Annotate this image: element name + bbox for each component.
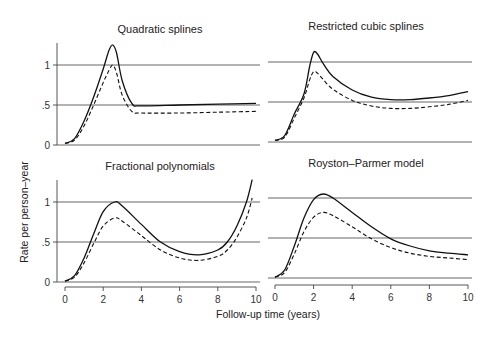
svg-text:0: 0 [272, 292, 278, 303]
curve-1-solid [275, 52, 468, 141]
curve-2-dashed [65, 198, 252, 281]
curve-3-dashed [275, 212, 468, 277]
svg-text:10: 10 [462, 292, 474, 303]
svg-text:10: 10 [250, 294, 262, 305]
chart-figure: Quadratic splines Restricted cubic splin… [0, 0, 493, 339]
y-ticks-bottom: 0 .5 1 [42, 197, 57, 288]
svg-text:4: 4 [139, 294, 145, 305]
curve-3-solid [275, 194, 468, 277]
svg-text:.5: .5 [42, 100, 51, 111]
panel-title-quadratic: Quadratic splines [118, 23, 203, 35]
curve-2-solid [65, 180, 252, 282]
x-axis-right: 0246810 [272, 285, 474, 303]
panel-title-royston: Royston–Parmer model [308, 157, 424, 169]
svg-text:6: 6 [177, 294, 183, 305]
svg-text:6: 6 [388, 292, 394, 303]
x-axis-label: Follow-up time (years) [216, 308, 320, 320]
curve-0-solid [65, 45, 256, 143]
svg-text:0: 0 [44, 277, 50, 288]
svg-text:2: 2 [311, 292, 317, 303]
svg-text:0: 0 [44, 140, 50, 151]
y-axis-label: Rate per person–year [18, 161, 30, 263]
gridlines [57, 62, 472, 282]
svg-text:1: 1 [44, 60, 50, 71]
svg-text:8: 8 [215, 294, 221, 305]
panel-title-fracpoly: Fractional polynomials [105, 160, 215, 172]
svg-text:2: 2 [100, 294, 106, 305]
svg-text:0: 0 [62, 294, 68, 305]
svg-text:.5: .5 [42, 237, 51, 248]
svg-text:4: 4 [349, 292, 355, 303]
panel-title-cubic: Restricted cubic splines [308, 20, 424, 32]
svg-text:8: 8 [427, 292, 433, 303]
svg-text:1: 1 [44, 197, 50, 208]
x-axis-left: 0246810 [62, 287, 262, 305]
curve-1-dashed [275, 71, 468, 140]
y-ticks-top: 0 .5 1 [42, 60, 57, 151]
